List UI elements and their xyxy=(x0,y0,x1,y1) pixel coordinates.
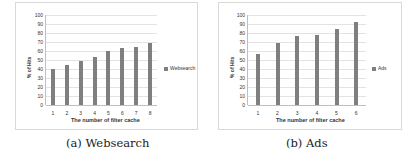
websearch-chart-panel: % of Hits 010203040506070809010012345678… xyxy=(15,2,198,130)
y-tick-label: 10 xyxy=(231,93,245,99)
legend-label: Websearch xyxy=(170,65,195,71)
gridline xyxy=(248,15,366,16)
x-axis-label: The number of filter cache xyxy=(276,117,345,123)
legend-swatch xyxy=(164,67,168,71)
ads-chart-panel: % of Hits 0102030405060708090100123456 T… xyxy=(218,2,402,130)
gridline xyxy=(46,60,157,61)
y-tick-label: 90 xyxy=(231,21,245,27)
x-tick-label: 5 xyxy=(332,110,342,116)
y-tick-label: 20 xyxy=(29,84,43,90)
x-tick-label: 6 xyxy=(351,110,361,116)
gridline xyxy=(46,51,157,52)
bar xyxy=(65,65,69,105)
y-tick-label: 30 xyxy=(231,75,245,81)
gridline xyxy=(248,33,366,34)
bar xyxy=(120,48,124,105)
gridline xyxy=(46,96,157,97)
x-tick-label: 4 xyxy=(312,110,322,116)
x-tick-label: 3 xyxy=(292,110,302,116)
gridline xyxy=(46,24,157,25)
y-tick-label: 100 xyxy=(29,12,43,18)
y-tick-label: 0 xyxy=(231,102,245,108)
plot-area: 0102030405060708090100123456 xyxy=(247,15,366,105)
gridline xyxy=(248,24,366,25)
x-tick-label: 4 xyxy=(90,110,100,116)
gridline xyxy=(248,105,366,106)
y-tick-label: 60 xyxy=(29,48,43,54)
bar xyxy=(93,57,97,105)
plot-area: 010203040506070809010012345678 xyxy=(45,15,157,105)
bar xyxy=(148,43,152,105)
gridline xyxy=(248,96,366,97)
x-tick-label: 8 xyxy=(145,110,155,116)
y-tick-label: 40 xyxy=(231,66,245,72)
bar xyxy=(51,69,55,105)
caption-websearch: (a) Websearch xyxy=(66,136,149,150)
y-tick-label: 50 xyxy=(29,57,43,63)
legend: Ads xyxy=(372,65,387,71)
y-tick-label: 90 xyxy=(29,21,43,27)
bar xyxy=(256,54,260,105)
bar xyxy=(134,47,138,106)
legend-label: Ads xyxy=(378,65,387,71)
x-tick-label: 7 xyxy=(131,110,141,116)
bar xyxy=(79,61,83,105)
gridline xyxy=(248,60,366,61)
y-tick-label: 60 xyxy=(231,48,245,54)
bar xyxy=(295,36,299,105)
y-tick-label: 70 xyxy=(231,39,245,45)
bar xyxy=(354,22,358,105)
y-tick-label: 40 xyxy=(29,66,43,72)
bar xyxy=(106,51,110,105)
bar xyxy=(276,43,280,105)
x-tick-label: 3 xyxy=(76,110,86,116)
gridline xyxy=(46,87,157,88)
y-tick-label: 0 xyxy=(29,102,43,108)
bar xyxy=(335,29,339,105)
y-tick-label: 80 xyxy=(29,30,43,36)
x-tick-label: 2 xyxy=(62,110,72,116)
y-tick-label: 70 xyxy=(29,39,43,45)
gridline xyxy=(248,78,366,79)
legend-swatch xyxy=(372,67,376,71)
gridline xyxy=(248,87,366,88)
y-tick-label: 100 xyxy=(231,12,245,18)
gridline xyxy=(248,42,366,43)
y-tick-label: 20 xyxy=(231,84,245,90)
caption-ads: (b) Ads xyxy=(286,136,328,150)
x-tick-label: 5 xyxy=(103,110,113,116)
gridline xyxy=(46,78,157,79)
x-tick-label: 2 xyxy=(273,110,283,116)
y-tick-label: 80 xyxy=(231,30,245,36)
gridline xyxy=(46,105,157,106)
gridline xyxy=(248,69,366,70)
legend: Websearch xyxy=(164,65,195,71)
y-tick-label: 50 xyxy=(231,57,245,63)
gridline xyxy=(46,33,157,34)
x-axis-label: The number of filter cache xyxy=(71,117,140,123)
x-tick-label: 6 xyxy=(117,110,127,116)
x-tick-label: 1 xyxy=(253,110,263,116)
bar xyxy=(315,35,319,105)
gridline xyxy=(46,15,157,16)
y-tick-label: 30 xyxy=(29,75,43,81)
gridline xyxy=(248,51,366,52)
x-tick-label: 1 xyxy=(48,110,58,116)
gridline xyxy=(46,69,157,70)
gridline xyxy=(46,42,157,43)
y-tick-label: 10 xyxy=(29,93,43,99)
